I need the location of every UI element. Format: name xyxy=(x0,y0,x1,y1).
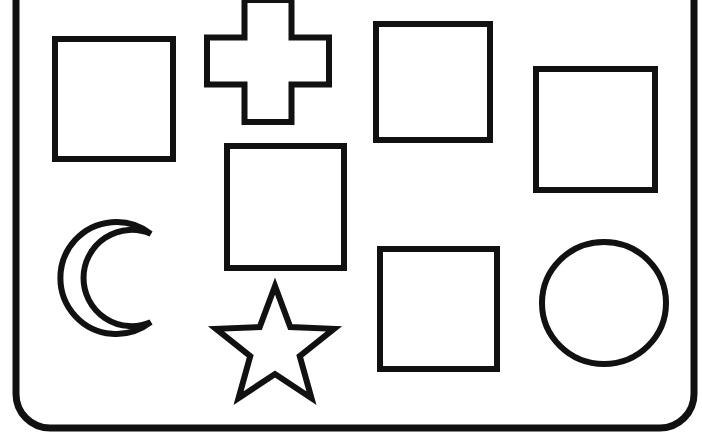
shape-square-1 xyxy=(55,39,173,159)
shape-square-5 xyxy=(380,249,497,369)
shapes-worksheet-page xyxy=(0,0,702,432)
shape-square-4 xyxy=(227,146,344,268)
shape-crescent-1 xyxy=(60,222,150,334)
shapes-canvas xyxy=(0,0,702,432)
shape-square-2 xyxy=(376,24,490,140)
shape-circle-1 xyxy=(542,242,666,364)
shape-square-3 xyxy=(536,69,655,190)
shape-cross-1 xyxy=(207,0,329,122)
shape-star-1 xyxy=(216,286,334,398)
